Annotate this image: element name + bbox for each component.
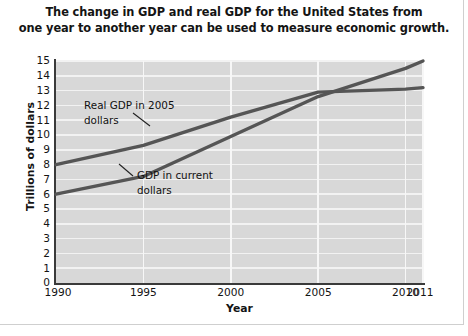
annotation-real-gdp-line-2: dollars: [84, 113, 175, 128]
y-axis-tick-label: 1: [28, 263, 50, 274]
annotation-current-gdp-line-2: dollars: [137, 183, 213, 198]
x-axis-tick-label: 2000: [208, 287, 254, 298]
page-frame-right-rule: [463, 0, 464, 325]
chart-title: The change in GDP and real GDP for the U…: [14, 5, 454, 36]
chart-title-line-2: one year to another year can be used to …: [14, 21, 454, 37]
figure: The change in GDP and real GDP for the U…: [0, 0, 468, 336]
page-frame-bottom-rule: [0, 324, 464, 325]
y-axis-tick-label: 3: [28, 233, 50, 244]
y-axis-title: Trillions of dollars: [24, 82, 37, 232]
x-axis-tick-label: 1990: [35, 287, 81, 298]
x-axis-title: Year: [56, 302, 423, 315]
x-axis-tick-label: 2005: [295, 287, 341, 298]
y-axis-tick-label: 14: [28, 70, 50, 81]
annotation-real-gdp-line-1: Real GDP in 2005: [84, 98, 175, 113]
x-axis-tick-label: 1995: [120, 287, 166, 298]
y-axis-tick-label: 2: [28, 248, 50, 259]
annotation-current-gdp: GDP in current dollars: [137, 168, 213, 197]
x-axis-tick-label: 2011: [397, 287, 443, 298]
y-axis-tick-label: 15: [28, 55, 50, 66]
x-axis-line: [54, 283, 425, 285]
annotation-current-gdp-line-1: GDP in current: [137, 168, 213, 183]
series-lines: [56, 61, 423, 283]
line-current-gdp: [56, 61, 423, 194]
chart-title-line-1: The change in GDP and real GDP for the U…: [14, 5, 454, 21]
annotation-real-gdp: Real GDP in 2005 dollars: [84, 98, 175, 127]
